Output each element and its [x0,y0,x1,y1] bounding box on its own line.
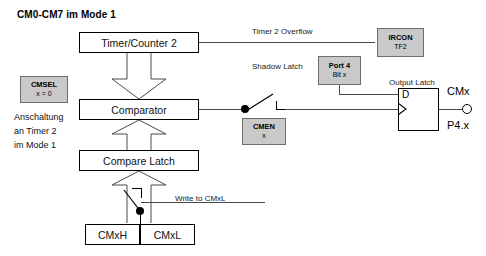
wire-port4-to-d-input [339,94,398,95]
arrow-compare-latch-to-comparator [108,120,170,151]
label-timer2-overflow: Timer 2 Overflow [252,27,313,36]
wire-switch-to-flipflop-clock [285,109,398,110]
label-write-to-cmxl: Write to CMxL [175,194,226,203]
register-ircon-value: TF2 [394,43,406,51]
block-timer-counter-2: Timer/Counter 2 [79,32,199,53]
register-ircon-name: IRCON [388,34,412,43]
block-comparator: Comparator [79,99,199,120]
side-note-line-2: an Timer 2 [14,126,57,136]
arrow-timer-to-comparator [108,53,170,100]
register-cmen: CMEN x [242,118,286,145]
wire-comparator-output [199,109,245,110]
register-port4-value: Bit x [333,71,347,79]
register-ircon: IRCON TF2 [377,28,424,57]
block-cmxh: CMxH [85,224,140,245]
output-terminal-cmx [462,104,472,114]
page-title: CM0-CM7 im Mode 1 [17,9,116,20]
register-port4: Port 4 Bit x [318,56,361,85]
register-cmsel: CMSEL x = 0 [20,76,68,103]
wire-timer2-overflow [199,42,375,43]
diagram-canvas: CM0-CM7 im Mode 1 Timer/Counter 2 Timer … [0,0,486,256]
flipflop-d-input-label: D [402,89,409,100]
label-output-latch: Output Latch [389,78,435,87]
register-cmsel-value: x = 0 [36,90,51,98]
label-cmx: CMx [447,85,470,97]
side-note-line-3: im Mode 1 [14,140,56,150]
block-cmxl: CMxL [140,224,195,245]
register-cmen-value: x [262,132,266,140]
wire-port4-down [339,85,340,94]
flipflop-clock-triangle-icon [398,103,407,115]
register-cmsel-name: CMSEL [31,81,57,90]
register-cmen-name: CMEN [253,123,275,132]
label-p4x: P4.x [447,119,469,131]
wire-pivot-to-cmxl [140,213,141,224]
label-shadow-latch: Shadow Latch [252,62,303,71]
switch-cmen-lever [245,92,277,114]
wire-flipflop-output [439,109,463,110]
block-compare-latch: Compare Latch [79,150,199,171]
switch-write-lever [122,188,148,214]
register-port4-name: Port 4 [329,62,350,71]
side-note-line-1: Anschaltung [14,112,64,122]
